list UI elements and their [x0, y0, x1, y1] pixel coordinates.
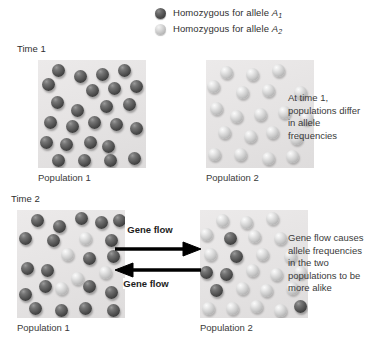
allele-a2-sphere	[244, 130, 257, 143]
allele-a1-sphere	[118, 64, 131, 77]
allele-a1-sphere	[107, 304, 120, 317]
allele-a1-sphere	[123, 98, 136, 111]
legend-item-allele-a1: Homozygous for allele A1	[155, 6, 369, 20]
allele-a2-sphere	[262, 84, 275, 97]
allele-a2-sphere	[220, 66, 233, 79]
allele-a1-sphere	[130, 80, 143, 93]
legend-item-label: Homozygous for allele A2	[173, 23, 282, 35]
allele-a1-sphere	[42, 78, 55, 91]
allele-a1-sphere	[83, 280, 96, 293]
allele-a1-sphere	[53, 220, 66, 233]
allele-a2-sphere	[216, 214, 229, 227]
allele-a1-sphere	[96, 68, 109, 81]
gene-flow-label-bottom: Gene flow	[123, 278, 169, 289]
allele-a2-sphere	[99, 266, 112, 279]
allele-a2-sphere	[236, 282, 249, 295]
allele-a2-sphere	[266, 212, 279, 225]
allele-a2-sphere	[248, 230, 261, 243]
allele-a1-sphere	[29, 302, 42, 315]
allele-a1-sphere	[78, 154, 91, 167]
allele-a2-sphere	[226, 302, 239, 315]
gene-flow-label-top: Gene flow	[127, 224, 173, 235]
legend-item-allele-a2: Homozygous for allele A2	[155, 22, 369, 36]
allele-a2-sphere	[260, 284, 273, 297]
allele-a1-sphere	[100, 100, 113, 113]
population-panel-time1-pop1	[38, 60, 146, 168]
allele-a2-sphere	[240, 216, 253, 229]
allele-subscript: 1	[278, 12, 282, 19]
panel-caption-time1-pop1: Population 1	[38, 172, 91, 183]
allele-a1-sphere	[40, 136, 53, 149]
legend: Homozygous for allele A1 Homozygous for …	[155, 6, 369, 38]
time-1-label: Time 1	[17, 43, 46, 54]
allele-a2-sphere	[207, 80, 220, 93]
allele-a2-sphere	[266, 126, 279, 139]
allele-a1-sphere	[19, 288, 32, 301]
allele-a1-sphere	[83, 252, 96, 265]
annotation-time-2: Gene flow causes allele frequencies in t…	[288, 232, 368, 295]
allele-a1-sphere	[52, 154, 65, 167]
allele-a2-sphere	[254, 108, 267, 121]
allele-a1-sphere	[66, 120, 79, 133]
allele-a2-sphere	[270, 268, 283, 281]
allele-a2-sphere	[218, 126, 231, 139]
allele-a2-sphere	[204, 248, 217, 261]
light-sphere-icon	[155, 24, 166, 35]
legend-item-label: Homozygous for allele A1	[173, 7, 282, 19]
dark-sphere-icon	[155, 8, 166, 19]
allele-a1-sphere	[104, 154, 117, 167]
allele-a1-sphere	[102, 140, 115, 153]
panel-caption-time2-pop1: Population 1	[17, 322, 70, 333]
panel-caption-time1-pop2: Population 2	[206, 172, 259, 183]
allele-a2-sphere	[230, 110, 243, 123]
gene-flow-arrows	[113, 224, 203, 302]
allele-a1-sphere	[52, 64, 65, 77]
allele-a2-sphere	[61, 248, 74, 261]
allele-a1-sphere	[55, 304, 68, 317]
allele-a1-sphere	[39, 280, 52, 293]
allele-a1-sphere	[220, 268, 233, 281]
allele-a1-sphere	[31, 214, 44, 227]
allele-a1-sphere	[60, 138, 73, 151]
allele-a1-sphere	[95, 216, 108, 229]
allele-a1-sphere	[224, 232, 237, 245]
allele-a2-sphere	[236, 86, 249, 99]
allele-a2-sphere	[79, 232, 92, 245]
time-2-label: Time 2	[11, 193, 40, 204]
allele-a2-sphere	[246, 264, 259, 277]
allele-a1-sphere	[108, 82, 121, 95]
allele-a1-sphere	[230, 250, 243, 263]
allele-a1-sphere	[210, 284, 223, 297]
allele-a1-sphere	[44, 116, 57, 129]
allele-a2-sphere	[246, 68, 259, 81]
allele-a1-sphere	[128, 152, 141, 165]
allele-a2-sphere	[210, 102, 223, 115]
panel-caption-time2-pop2: Population 2	[200, 322, 253, 333]
allele-a2-sphere	[262, 152, 275, 165]
allele-a2-sphere	[286, 150, 299, 163]
allele-a2-sphere	[274, 304, 287, 317]
allele-a1-sphere	[79, 302, 92, 315]
allele-a1-sphere	[110, 118, 123, 131]
allele-a1-sphere	[130, 122, 143, 135]
allele-a1-sphere	[19, 232, 32, 245]
allele-a1-sphere	[74, 70, 87, 83]
allele-a2-sphere	[234, 148, 247, 161]
allele-a1-sphere	[41, 264, 54, 277]
allele-a2-sphere	[208, 148, 221, 161]
allele-a1-sphere	[71, 104, 84, 117]
allele-a1-sphere	[21, 262, 34, 275]
allele-a1-sphere	[86, 84, 99, 97]
allele-a2-sphere	[256, 248, 269, 261]
allele-a2-sphere	[272, 64, 285, 77]
allele-a2-sphere	[202, 302, 215, 315]
allele-a1-sphere	[51, 96, 64, 109]
population-panel-time2-pop1	[17, 210, 125, 318]
allele-a1-sphere	[88, 116, 101, 129]
allele-subscript: 2	[278, 28, 282, 35]
gene-flow-figure: Homozygous for allele A1 Homozygous for …	[0, 0, 373, 342]
gene-flow-annotation: Gene flow Gene flow	[113, 224, 203, 302]
allele-a2-sphere	[250, 300, 263, 313]
allele-a2-sphere	[274, 232, 287, 245]
allele-a2-sphere	[55, 282, 68, 295]
